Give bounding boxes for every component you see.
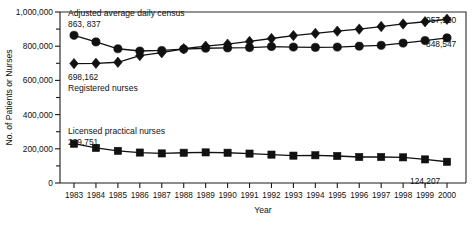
data-point-marker [92, 38, 100, 46]
data-point-marker [290, 152, 297, 159]
x-axis-title: Year [254, 205, 272, 215]
rn-end-value: 957,550 [426, 15, 457, 25]
x-axis-tick-label: 1984 [87, 191, 106, 200]
rn-start-value: 698,162 [68, 72, 99, 82]
x-axis-tick-label: 1995 [328, 191, 347, 200]
census-end-value: 848,547 [426, 39, 457, 49]
data-point-marker [202, 149, 209, 156]
x-axis-tick-label: 1998 [394, 191, 413, 200]
y-axis-title: No. of Patients or Nurses [4, 49, 14, 145]
x-axis-tick-label: 1987 [153, 191, 172, 200]
data-point-marker [268, 151, 275, 158]
data-point-marker [114, 147, 121, 154]
x-axis-tick-label: 1997 [372, 191, 391, 200]
data-point-marker [333, 43, 341, 51]
data-point-marker [114, 45, 122, 53]
data-point-marker [224, 149, 231, 156]
chart-figure: 0200,000400,000600,000800,0001,000,000 1… [0, 0, 472, 237]
census-series-label: Adjusted average daily census [68, 8, 185, 18]
data-point-marker [356, 153, 363, 160]
data-point-marker [180, 149, 187, 156]
x-axis-tick-label: 2000 [438, 191, 457, 200]
data-point-marker [246, 150, 253, 157]
data-point-marker [399, 39, 407, 47]
x-axis-tick-label: 1996 [350, 191, 369, 200]
x-axis-tick-label: 1985 [109, 191, 128, 200]
y-axis-tick-label: 0 [48, 178, 53, 188]
x-axis-tick-label: 1992 [262, 191, 281, 200]
data-point-marker [70, 31, 78, 39]
x-axis-tick-label: 1994 [306, 191, 325, 200]
y-axis-tick-label: 200,000 [23, 144, 54, 154]
lpn-end-value: 124,207 [410, 176, 441, 186]
x-axis-tick-label: 1983 [65, 191, 84, 200]
data-point-marker [334, 152, 341, 159]
census-start-value: 863, 837 [68, 19, 101, 29]
data-point-marker [136, 149, 143, 156]
y-axis-tick-label: 800,000 [23, 41, 54, 51]
x-axis-tick-label: 1986 [131, 191, 150, 200]
data-point-marker [378, 153, 385, 160]
data-point-marker [421, 156, 428, 163]
lpn-series-label: Licensed practical nurses [68, 126, 165, 136]
data-point-marker [312, 152, 319, 159]
y-axis-tick-label: 600,000 [23, 75, 54, 85]
data-point-marker [355, 42, 363, 50]
x-axis-tick-label: 1990 [218, 191, 237, 200]
data-point-marker [377, 41, 385, 49]
data-point-marker [158, 150, 165, 157]
line-chart-canvas: 0200,000400,000600,000800,0001,000,000 1… [0, 0, 472, 237]
x-axis-tick-label: 1991 [240, 191, 259, 200]
data-point-marker [400, 154, 407, 161]
x-axis-tick-label: 1999 [416, 191, 435, 200]
x-axis-tick-label: 1993 [284, 191, 303, 200]
x-axis-tick-label: 1989 [197, 191, 216, 200]
data-point-marker [311, 43, 319, 51]
y-axis-tick-label: 1,000,000 [16, 7, 54, 17]
x-axis-tick-label: 1988 [175, 191, 194, 200]
data-point-marker [289, 43, 297, 51]
data-point-marker [443, 158, 450, 165]
rn-series-label: Registered nurses [68, 83, 138, 93]
lpn-start-value: 229,751 [68, 137, 99, 147]
y-axis-tick-label: 400,000 [23, 110, 54, 120]
